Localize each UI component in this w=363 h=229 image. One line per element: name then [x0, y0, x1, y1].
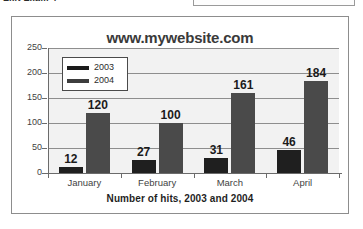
bar-2004-march — [231, 93, 255, 174]
x-axis-line — [42, 173, 342, 174]
x-axis-tick-mark — [339, 173, 340, 178]
y-axis-tick-label: 200 — [8, 67, 42, 77]
bar-2003-january — [59, 167, 83, 173]
bar-value-label: 184 — [306, 66, 326, 80]
legend-label-2004: 2004 — [94, 76, 114, 85]
x-axis-label-february: February — [138, 177, 176, 188]
bar-value-label: 161 — [233, 78, 253, 92]
y-axis-tick-label: 0 — [8, 167, 42, 177]
bar-2003-march — [204, 158, 228, 174]
bar-2004-january — [86, 113, 110, 173]
x-axis-title: Number of hits, 2003 and 2004 — [12, 193, 348, 204]
legend-label-2003: 2003 — [94, 63, 114, 72]
bar-value-label: 27 — [137, 145, 150, 159]
chart-title: www.mywebsite.com — [12, 29, 348, 46]
bar-value-label: 12 — [64, 152, 77, 166]
cropped-heading-text: Exit Exam 4 — [3, 0, 57, 3]
y-axis-tick-mark — [42, 98, 47, 99]
cropped-top-strip: Exit Exam 4 — [0, 0, 363, 13]
x-axis-tick-mark — [121, 173, 122, 178]
bar-2004-april — [304, 81, 328, 173]
bar-value-label: 46 — [282, 135, 295, 149]
legend-item: 2003 — [67, 61, 123, 74]
y-axis-line — [48, 48, 49, 174]
bar-value-label: 31 — [210, 143, 223, 157]
y-axis-tick-label: 50 — [8, 142, 42, 152]
legend-item: 2004 — [67, 74, 123, 87]
x-axis-label-march: March — [217, 177, 243, 188]
bar-2003-february — [132, 160, 156, 174]
x-axis-tick-mark — [48, 173, 49, 178]
bar-value-label: 100 — [161, 108, 181, 122]
chart-legend: 2003 2004 — [62, 57, 128, 91]
x-axis-tick-mark — [194, 173, 195, 178]
y-axis-tick-label: 100 — [8, 117, 42, 127]
chart-figure: www.mywebsite.com 050100150200250 121202… — [11, 16, 349, 214]
x-axis-label-january: January — [67, 177, 101, 188]
y-axis-tick-label: 250 — [8, 42, 42, 52]
y-axis-tick-mark — [42, 123, 47, 124]
y-axis-ticks: 050100150200250 — [6, 48, 42, 173]
y-axis-tick-label: 150 — [8, 92, 42, 102]
bar-2004-february — [159, 123, 183, 173]
bar-value-label: 120 — [88, 98, 108, 112]
legend-swatch-2004 — [67, 79, 89, 83]
cropped-top-right-box — [193, 0, 355, 6]
x-axis-label-april: April — [293, 177, 312, 188]
gridline — [48, 48, 339, 49]
y-axis-tick-mark — [42, 73, 47, 74]
y-axis-tick-mark — [42, 48, 47, 49]
bar-2003-april — [277, 150, 301, 173]
y-axis-tick-mark — [42, 173, 47, 174]
y-axis-tick-mark — [42, 148, 47, 149]
legend-swatch-2003 — [67, 66, 89, 70]
x-axis-tick-mark — [266, 173, 267, 178]
